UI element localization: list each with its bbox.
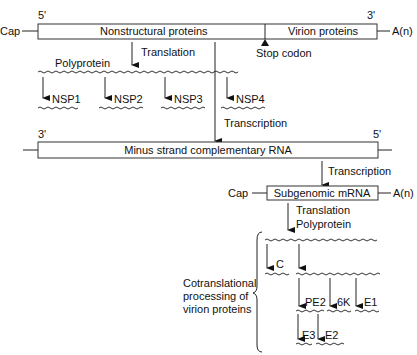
minus-five-prime-label: 5' [373, 128, 381, 140]
minus-strand-rna: 3' 5' Minus strand complementary RNA [23, 128, 392, 158]
nsp4-label: NSP4 [236, 93, 265, 105]
genome-polya-label: A(n) [392, 25, 413, 37]
subgenomic-polya-label: A(n) [393, 187, 414, 199]
minus-three-prime-label: 3' [38, 128, 46, 140]
e2-label: E2 [325, 329, 338, 341]
nonstructural-translation: Translation Polyprotein NSP1 NSP2 NSP3 N… [38, 42, 265, 109]
nsp4-wavy-line [221, 107, 265, 109]
stop-codon-label: Stop codon [256, 47, 312, 59]
subgenomic-cap-label: Cap [228, 187, 248, 199]
e1-label: E1 [364, 296, 377, 308]
stop-codon-marker-icon [261, 39, 269, 46]
polyprotein-wavy-line [38, 71, 238, 73]
genomic-rna: 5' 3' Cap Nonstructural proteins Virion … [0, 9, 413, 59]
nsp3-wavy-line [161, 107, 205, 109]
nonstructural-proteins-label: Nonstructural proteins [100, 25, 208, 37]
c-label: C [276, 258, 284, 270]
e2-wavy-line [316, 343, 344, 345]
6k-label: 6K [337, 296, 351, 308]
nsp2-wavy-line [99, 107, 143, 109]
virion-proteins-label: Virion proteins [288, 25, 359, 37]
genome-cap-label: Cap [0, 25, 20, 37]
subgenomic-mrna: Cap Subgenomic mRNA A(n) Translation Pol… [228, 186, 414, 230]
transcription-2-label: Transcription [328, 165, 391, 177]
subgenomic-translation-label: Translation [296, 204, 350, 216]
nsp1-wavy-line [38, 107, 78, 109]
bracket-label-line1: Cotranslational [183, 277, 256, 289]
e3-label: E3 [302, 329, 315, 341]
polyprotein-label: Polyprotein [55, 57, 110, 69]
pe2-wavy-line [296, 310, 324, 312]
minus-strand-label: Minus strand complementary RNA [124, 144, 292, 156]
structural-polyprotein-wavy-line [296, 273, 380, 275]
transcription-label: Transcription [224, 117, 287, 129]
bracket-label-line2: processing of [183, 290, 249, 302]
bracket-label-line3: virion proteins [183, 303, 252, 315]
c-wavy-line [265, 273, 289, 275]
subgenomic-label: Subgenomic mRNA [274, 187, 371, 199]
subgenomic-polyprotein-label: Polyprotein [296, 218, 351, 230]
genome-three-prime-label: 3' [367, 9, 375, 21]
processing-bracket [253, 232, 262, 352]
nsp1-label: NSP1 [52, 93, 81, 105]
alphavirus-replication-diagram: 5' 3' Cap Nonstructural proteins Virion … [0, 0, 417, 355]
translation-label: Translation [141, 46, 195, 58]
pe2-label: PE2 [305, 296, 326, 308]
virion-processing: Cotranslational processing of virion pro… [183, 232, 380, 352]
nsp3-label: NSP3 [174, 93, 203, 105]
e3-wavy-line [296, 343, 312, 345]
nsp2-label: NSP2 [114, 93, 143, 105]
6k-wavy-line [327, 310, 351, 312]
genome-five-prime-label: 5' [38, 9, 46, 21]
e1-wavy-line [355, 310, 379, 312]
virion-polyprotein-wavy-line [265, 239, 377, 241]
